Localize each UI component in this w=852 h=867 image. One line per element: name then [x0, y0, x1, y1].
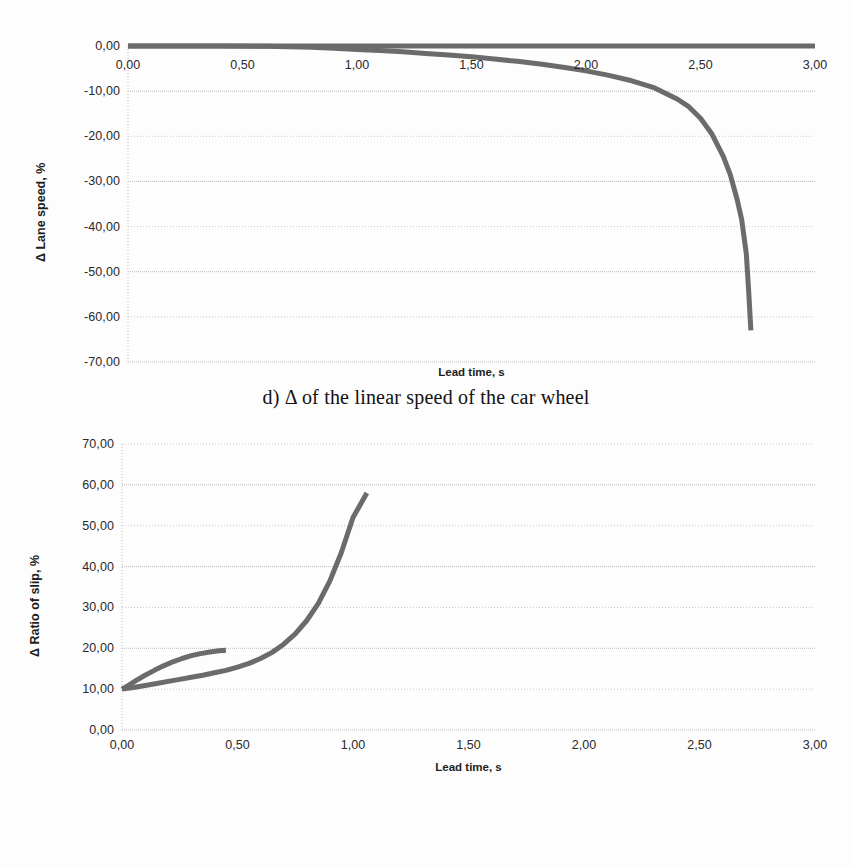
data-series-line — [122, 650, 226, 689]
chart-d-plot — [0, 0, 852, 370]
y-axis-tick-label: 30,00 — [0, 600, 114, 614]
y-axis-tick-label: 70,00 — [0, 437, 114, 451]
figure-d-caption: d) Δ of the linear speed of the car whee… — [0, 386, 852, 409]
document-page: 0,00-10,00-20,00-30,00-40,00-50,00-60,00… — [0, 0, 852, 867]
y-axis-tick-label: -30,00 — [0, 174, 120, 188]
x-axis-tick-label: 2,50 — [687, 738, 712, 752]
x-axis-tick-label: 2,00 — [574, 58, 599, 72]
x-axis-tick-label: 2,50 — [688, 58, 713, 72]
x-axis-tick-label: 1,50 — [456, 738, 481, 752]
y-axis-tick-label: 50,00 — [0, 519, 114, 533]
x-axis-tick-label: 1,00 — [345, 58, 370, 72]
y-axis-tick-label: 60,00 — [0, 478, 114, 492]
chart-e-plot — [0, 425, 852, 770]
x-axis-tick-label: 1,00 — [341, 738, 366, 752]
x-axis-tick-label: 3,00 — [803, 738, 828, 752]
x-axis-tick-label: 0,50 — [225, 738, 250, 752]
chart-d-area: 0,00-10,00-20,00-30,00-40,00-50,00-60,00… — [0, 0, 852, 370]
x-axis-tick-label: 2,00 — [572, 738, 597, 752]
y-axis-tick-label: -10,00 — [0, 84, 120, 98]
y-axis-tick-label: -60,00 — [0, 310, 120, 324]
y-axis-tick-label: 0,00 — [0, 723, 114, 737]
y-axis-tick-label: -20,00 — [0, 129, 120, 143]
y-axis-tick-label: 40,00 — [0, 560, 114, 574]
y-axis-tick-label: 0,00 — [0, 39, 120, 53]
chart-d-x-axis-title: Lead time, s — [438, 366, 504, 378]
x-axis-tick-label: 3,00 — [803, 58, 828, 72]
y-axis-tick-label: -70,00 — [0, 355, 120, 369]
data-series-line — [128, 46, 751, 330]
x-axis-tick-label: 0,50 — [230, 58, 255, 72]
x-axis-tick-label: 0,00 — [116, 58, 141, 72]
y-axis-tick-label: 10,00 — [0, 682, 114, 696]
chart-d-y-axis-title: Δ Lane speed, % — [34, 163, 48, 262]
y-axis-tick-label: -50,00 — [0, 265, 120, 279]
chart-e-area: 70,0060,0050,0040,0030,0020,0010,000,000… — [0, 425, 852, 770]
y-axis-tick-label: -40,00 — [0, 220, 120, 234]
y-axis-tick-label: 20,00 — [0, 641, 114, 655]
x-axis-tick-label: 0,00 — [110, 738, 135, 752]
x-axis-tick-label: 1,50 — [459, 58, 484, 72]
chart-e-y-axis-title: Δ Ratio of slip, % — [28, 555, 42, 657]
figure-e: 70,0060,0050,0040,0030,0020,0010,000,000… — [0, 425, 852, 867]
chart-e-x-axis-title: Lead time, s — [435, 761, 501, 773]
data-series-line — [122, 493, 367, 689]
figure-d: 0,00-10,00-20,00-30,00-40,00-50,00-60,00… — [0, 0, 852, 425]
